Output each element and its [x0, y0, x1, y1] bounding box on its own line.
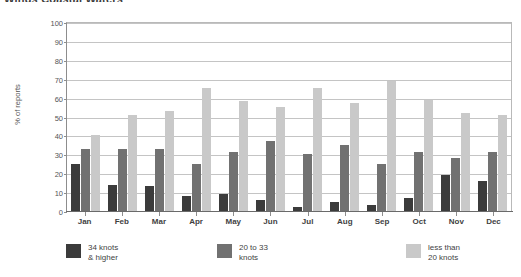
legend-swatch: [406, 244, 421, 258]
x-axis-tick-label: Jan: [66, 217, 103, 226]
x-axis-tick: Mar: [140, 212, 177, 224]
x-axis-tick: Apr: [178, 212, 215, 224]
x-axis-tick: Jun: [252, 212, 289, 224]
bar: [202, 88, 211, 211]
legend-label: 34 knots & higher: [88, 243, 118, 262]
y-axis-tick-label: 40: [55, 132, 63, 141]
bar: [266, 141, 275, 211]
legend-swatch: [66, 244, 81, 258]
legend-label: 20 to 33 knots: [239, 243, 268, 262]
bar: [404, 198, 413, 211]
x-axis-tick-label: Jul: [289, 217, 326, 226]
y-axis-tick-label: 50: [55, 113, 63, 122]
bar-group: [363, 23, 400, 211]
bar: [145, 186, 154, 211]
legend-swatch: [217, 244, 232, 258]
wind-distribution-chart: Winds Coastal Waters % of reports 010203…: [0, 0, 521, 277]
x-axis-tick: Jul: [289, 212, 326, 224]
bar: [192, 164, 201, 211]
bar-group: [474, 23, 511, 211]
bar: [303, 154, 312, 211]
y-axis-tick-label: 80: [55, 56, 63, 65]
bar: [182, 196, 191, 211]
bar: [451, 158, 460, 211]
x-axis-tick-label: Oct: [401, 217, 438, 226]
bar: [118, 149, 127, 211]
legend-item: 20 to 33 knots: [173, 243, 324, 271]
y-axis-label: % of reports: [13, 65, 22, 145]
bar: [498, 115, 507, 211]
bar: [91, 135, 100, 211]
bar: [330, 202, 339, 211]
x-axis-tick: Feb: [103, 212, 140, 224]
bar-group: [67, 23, 104, 211]
y-axis-tick-label: 0: [59, 208, 63, 217]
bar: [350, 103, 359, 211]
x-axis-tick: Nov: [438, 212, 475, 224]
bar-group: [215, 23, 252, 211]
bar-group: [289, 23, 326, 211]
x-axis-tick: Oct: [401, 212, 438, 224]
x-axis-tick-label: May: [215, 217, 252, 226]
x-axis-tick: Sep: [363, 212, 400, 224]
bar: [441, 175, 450, 211]
x-axis-tick: Jan: [66, 212, 103, 224]
y-axis-tick-label: 30: [55, 151, 63, 160]
legend-item: 34 knots & higher: [66, 243, 173, 271]
y-axis-tick-label: 10: [55, 189, 63, 198]
bar: [387, 81, 396, 211]
x-axis-tick-label: Feb: [103, 217, 140, 226]
y-axis-tick-label: 100: [50, 19, 63, 28]
x-axis-tick-label: Dec: [475, 217, 512, 226]
legend-item: less than 20 knots: [324, 243, 513, 271]
legend-label: less than 20 knots: [428, 243, 460, 262]
x-axis-tick: Aug: [326, 212, 363, 224]
x-axis-tick-label: Jun: [252, 217, 289, 226]
x-axis-tick-label: Apr: [178, 217, 215, 226]
x-axis-tick: May: [215, 212, 252, 224]
bar: [340, 145, 349, 211]
bar: [71, 164, 80, 211]
x-axis-tick-label: Mar: [140, 217, 177, 226]
bar: [276, 107, 285, 211]
bar: [239, 101, 248, 211]
chart-legend: 34 knots & higher20 to 33 knotsless than…: [66, 243, 513, 271]
bar: [108, 185, 117, 211]
bar: [488, 152, 497, 211]
x-axis-tick-label: Nov: [438, 217, 475, 226]
bar: [128, 115, 137, 211]
x-axis-ticks: JanFebMarAprMayJunJulAugSepOctNovDec: [66, 212, 512, 224]
bar-group: [437, 23, 474, 211]
bar: [313, 88, 322, 211]
plot-area: 0102030405060708090100: [66, 22, 512, 211]
bar-group: [104, 23, 141, 211]
chart-title: Winds Coastal Waters: [4, 0, 123, 2]
bar-group: [326, 23, 363, 211]
y-axis-tick-label: 20: [55, 170, 63, 179]
bar-group: [252, 23, 289, 211]
bar: [256, 200, 265, 211]
bar-group: [178, 23, 215, 211]
bar: [229, 152, 238, 211]
bar: [478, 181, 487, 211]
bar: [81, 149, 90, 211]
y-axis-tick-label: 90: [55, 37, 63, 46]
bar: [377, 164, 386, 211]
bar-group: [141, 23, 178, 211]
bar: [155, 149, 164, 211]
x-axis-tick: Dec: [475, 212, 512, 224]
bar-group: [400, 23, 437, 211]
y-axis-tick-label: 70: [55, 75, 63, 84]
x-axis-tick-label: Aug: [326, 217, 363, 226]
bar: [461, 113, 470, 211]
x-axis-tick-label: Sep: [363, 217, 400, 226]
bar: [424, 100, 433, 212]
bar: [219, 194, 228, 211]
bar: [165, 111, 174, 211]
bar: [414, 152, 423, 211]
bar-groups: [67, 23, 511, 211]
y-axis-tick-label: 60: [55, 94, 63, 103]
